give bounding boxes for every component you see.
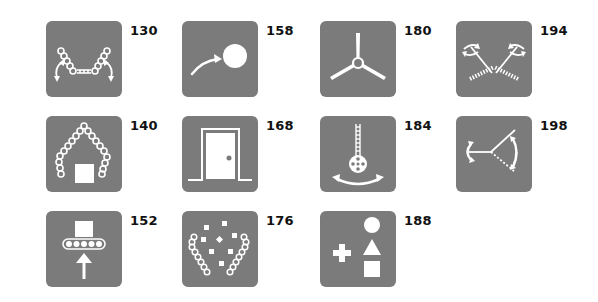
tile-180[interactable]: 180 (320, 21, 450, 111)
tile-number: 130 (130, 23, 158, 38)
tile-198[interactable]: 198 (456, 116, 586, 206)
tile-number: 140 (130, 118, 158, 133)
tile-number: 188 (404, 213, 432, 228)
tile-130[interactable]: 130 (46, 21, 176, 111)
grabbing-conveyor-arms-icon (46, 116, 122, 192)
tile-number: 194 (540, 23, 568, 38)
push-up-conveyor-icon (46, 211, 122, 287)
tile-number: 180 (404, 23, 432, 38)
tile-152[interactable]: 152 (46, 211, 176, 301)
tile-158[interactable]: 158 (182, 21, 312, 111)
tile-194[interactable]: 194 (456, 21, 586, 111)
tile-number: 176 (266, 213, 294, 228)
tile-number: 184 (404, 118, 432, 133)
tile-176[interactable]: 176 (182, 211, 312, 301)
angle-rotation-joint-icon (456, 116, 532, 192)
pendulum-wheel-icon (320, 116, 396, 192)
propeller-icon (320, 21, 396, 97)
tile-140[interactable]: 140 (46, 116, 176, 206)
throw-ball-icon (182, 21, 258, 97)
tile-184[interactable]: 184 (320, 116, 450, 206)
tile-188[interactable]: 188 (320, 211, 450, 301)
tile-number: 158 (266, 23, 294, 38)
tile-168[interactable]: 168 (182, 116, 312, 206)
two-tilting-conveyor-arms-icon (46, 21, 122, 97)
tile-number: 168 (266, 118, 294, 133)
door-icon (182, 116, 258, 192)
shapes-add-icon (320, 211, 396, 287)
rotating-toothed-rods-icon (456, 21, 532, 97)
tile-number: 152 (130, 213, 158, 228)
tile-number: 198 (540, 118, 568, 133)
pinball-flippers-icon (182, 211, 258, 287)
